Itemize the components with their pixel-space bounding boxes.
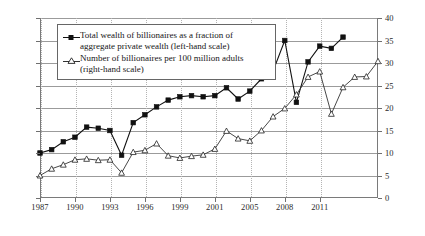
data-point-marker-square bbox=[119, 153, 124, 158]
right-axis-tick-mark bbox=[378, 86, 382, 87]
left-axis-tick-mark bbox=[36, 153, 40, 154]
data-point-marker-triangle bbox=[154, 141, 160, 146]
data-point-marker-triangle bbox=[235, 136, 241, 141]
legend-label-line1: Number of billionaires per 100 million a… bbox=[80, 53, 243, 63]
data-point-marker-square bbox=[166, 98, 171, 103]
data-point-marker-square bbox=[49, 147, 54, 152]
data-point-marker-square bbox=[154, 105, 159, 110]
data-point-marker-square bbox=[96, 126, 101, 131]
right-axis-tick-mark bbox=[378, 176, 382, 177]
data-point-marker-square bbox=[306, 60, 311, 65]
chart-legend: Total wealth of billionaires as a fracti… bbox=[57, 24, 276, 80]
x-axis-tick-mark bbox=[110, 198, 111, 202]
x-axis-tick-mark bbox=[320, 198, 321, 202]
right-axis-tick-mark bbox=[378, 131, 382, 132]
data-point-marker-square bbox=[131, 120, 136, 125]
data-point-marker-triangle bbox=[270, 114, 276, 119]
data-point-marker-square bbox=[329, 46, 334, 51]
data-point-marker-triangle bbox=[317, 69, 323, 74]
left-axis-tick-mark bbox=[36, 176, 40, 177]
right-axis-tick-label: 20 bbox=[385, 103, 394, 113]
x-axis-tick-mark bbox=[40, 198, 41, 202]
left-axis-tick-mark bbox=[36, 108, 40, 109]
data-point-marker-square bbox=[236, 97, 241, 102]
x-axis-tick-mark bbox=[285, 198, 286, 202]
data-point-marker-triangle bbox=[224, 128, 230, 133]
data-point-marker-square bbox=[84, 125, 89, 130]
legend-label-line2: (right-hand scale) bbox=[80, 64, 144, 74]
legend-entry-wealth-fraction: Total wealth of billionaires as a fracti… bbox=[63, 30, 269, 51]
x-axis-tick-mark bbox=[215, 198, 216, 202]
right-axis-tick-label: 10 bbox=[385, 148, 394, 158]
legend-entry-billionaires-count: Number of billionaires per 100 million a… bbox=[63, 53, 269, 74]
chart-container: Total wealth of billionaires as a fracti… bbox=[0, 0, 425, 236]
legend-label-billionaires-count: Number of billionaires per 100 million a… bbox=[80, 53, 243, 74]
right-axis-tick-mark bbox=[378, 198, 382, 199]
right-axis-tick-label: 5 bbox=[385, 171, 389, 181]
data-point-marker-triangle bbox=[328, 111, 334, 116]
data-point-marker-square bbox=[317, 44, 322, 49]
right-axis-tick-mark bbox=[378, 63, 382, 64]
right-axis-tick-mark bbox=[378, 108, 382, 109]
x-axis-tick-mark bbox=[180, 198, 181, 202]
left-axis-tick-mark bbox=[36, 63, 40, 64]
x-axis-tick-mark bbox=[145, 198, 146, 202]
right-axis-tick-mark bbox=[378, 153, 382, 154]
data-point-marker-triangle bbox=[142, 147, 148, 152]
right-axis-tick-label: 35 bbox=[385, 36, 394, 46]
open-triangle-line-marker-icon bbox=[63, 53, 80, 65]
data-point-marker-square bbox=[294, 100, 299, 105]
x-axis-tick-mark bbox=[75, 198, 76, 202]
data-point-marker-square bbox=[282, 38, 287, 43]
legend-label-line2: aggregate private wealth (left-hand scal… bbox=[80, 41, 229, 51]
data-point-marker-square bbox=[178, 94, 183, 99]
data-point-marker-square bbox=[201, 94, 206, 99]
legend-label-wealth-fraction: Total wealth of billionaires as a fracti… bbox=[80, 30, 233, 51]
data-point-marker-square bbox=[247, 89, 252, 94]
data-point-marker-triangle bbox=[305, 74, 311, 79]
data-point-marker-square bbox=[108, 128, 113, 133]
data-point-marker-triangle bbox=[212, 146, 218, 151]
x-axis-tick-mark bbox=[250, 198, 251, 202]
left-axis-tick-mark bbox=[36, 131, 40, 132]
data-point-marker-square bbox=[341, 35, 346, 40]
data-point-marker-triangle bbox=[49, 166, 55, 171]
right-axis-tick-label: 30 bbox=[385, 58, 394, 68]
data-point-marker-square bbox=[143, 112, 148, 117]
right-axis-tick-mark bbox=[378, 41, 382, 42]
left-axis-tick-mark bbox=[36, 86, 40, 87]
right-axis-tick-label: 15 bbox=[385, 126, 394, 136]
filled-square-line-marker-icon bbox=[63, 30, 80, 41]
x-axis-tick-label: 2011 bbox=[300, 202, 340, 212]
data-point-marker-square bbox=[73, 135, 78, 140]
right-axis-tick-label: 40 bbox=[385, 13, 394, 23]
data-point-marker-square bbox=[61, 139, 66, 144]
left-axis-tick-mark bbox=[36, 18, 40, 19]
data-point-marker-square bbox=[224, 85, 229, 90]
right-axis-tick-label: 25 bbox=[385, 81, 394, 91]
right-axis-tick-label: 0 bbox=[385, 193, 389, 203]
legend-label-line1: Total wealth of billionaires as a fracti… bbox=[80, 30, 233, 40]
data-point-marker-square bbox=[213, 93, 218, 98]
data-point-marker-square bbox=[189, 93, 194, 98]
data-point-marker-triangle bbox=[60, 162, 66, 167]
right-axis-tick-mark bbox=[378, 18, 382, 19]
left-axis-tick-mark bbox=[36, 41, 40, 42]
